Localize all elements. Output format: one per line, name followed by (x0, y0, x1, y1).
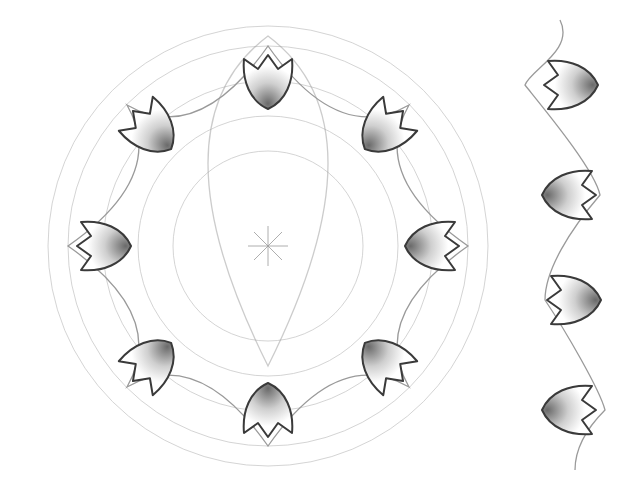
pencil-drawing (0, 0, 635, 496)
rosette (48, 26, 488, 466)
center-mark (248, 226, 288, 266)
border-strip (525, 20, 605, 470)
